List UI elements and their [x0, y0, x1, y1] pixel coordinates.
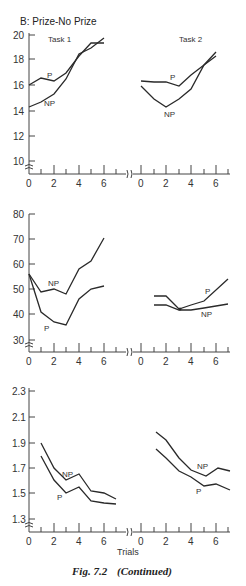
task1-p-line [29, 274, 104, 325]
svg-text:18: 18 [13, 54, 25, 65]
panel-1: B: Prize-No Prize Task 1 Task 2 20 18 16… [13, 16, 230, 189]
intersection-dot [179, 308, 182, 311]
label-p: P [196, 487, 201, 496]
svg-text:6: 6 [213, 178, 219, 189]
svg-text:6: 6 [101, 356, 107, 367]
figure-canvas: B: Prize-No Prize Task 1 Task 2 20 18 16… [0, 0, 246, 586]
svg-text:60: 60 [13, 259, 25, 270]
figure-caption-continued: (Continued) [117, 565, 172, 578]
svg-text:2: 2 [163, 356, 169, 367]
label-p: P [170, 73, 175, 82]
task2-np-line [156, 432, 230, 476]
label-p: P [205, 287, 210, 296]
task2-p-line [156, 449, 230, 490]
svg-text:0: 0 [138, 178, 144, 189]
svg-text:20: 20 [13, 30, 25, 41]
svg-text:30: 30 [13, 335, 25, 346]
task2-p-line [141, 56, 216, 86]
svg-text:2: 2 [163, 178, 169, 189]
task1-p-line [41, 456, 116, 504]
svg-text:1.5: 1.5 [12, 488, 26, 499]
y-ticks: 20 18 16 14 12 10 [13, 30, 35, 167]
svg-text:16: 16 [13, 80, 25, 91]
svg-text:2: 2 [163, 536, 169, 547]
svg-text:0: 0 [138, 536, 144, 547]
svg-text:50: 50 [13, 284, 25, 295]
svg-text:40: 40 [13, 309, 25, 320]
svg-text:80: 80 [13, 209, 25, 220]
svg-text:0: 0 [26, 536, 32, 547]
task1-np-line [29, 238, 104, 294]
svg-text:4: 4 [188, 178, 194, 189]
label-np: NP [164, 110, 175, 119]
panel-2: 80 70 60 50 40 30 02 46 02 46 NP P [13, 209, 230, 367]
svg-text:6: 6 [101, 178, 107, 189]
svg-text:2.1: 2.1 [12, 412, 26, 423]
svg-text:4: 4 [188, 356, 194, 367]
label-np: NP [44, 99, 55, 108]
svg-text:1.3: 1.3 [12, 514, 26, 525]
figure-caption: Fig. 7.2 [71, 565, 108, 577]
svg-text:10: 10 [13, 156, 25, 167]
label-p: P [47, 71, 52, 80]
svg-text:70: 70 [13, 234, 25, 245]
svg-text:4: 4 [76, 536, 82, 547]
svg-text:1.9: 1.9 [12, 438, 26, 449]
svg-text:14: 14 [13, 106, 25, 117]
svg-text:2: 2 [51, 356, 57, 367]
label-p: P [57, 493, 62, 502]
task-1-label: Task 1 [48, 35, 72, 44]
svg-text:4: 4 [188, 536, 194, 547]
svg-text:0: 0 [26, 178, 32, 189]
label-np: NP [201, 310, 212, 319]
panel-title: B: Prize-No Prize [20, 16, 97, 27]
svg-text:0: 0 [26, 356, 32, 367]
axis-break-icon [127, 348, 132, 356]
svg-text:6: 6 [213, 536, 219, 547]
label-np: NP [48, 279, 59, 288]
svg-text:2: 2 [51, 536, 57, 547]
svg-text:2: 2 [51, 178, 57, 189]
y-ticks: 2.3 2.1 1.9 1.7 1.5 1.3 [12, 386, 35, 525]
task-2-label: Task 2 [179, 35, 203, 44]
label-np: NP [62, 470, 73, 479]
svg-text:12: 12 [13, 131, 25, 142]
task2-np-line [141, 52, 216, 107]
x-axis-label: Trials [117, 547, 139, 557]
axis-break-icon [127, 170, 132, 178]
svg-text:0: 0 [138, 356, 144, 367]
svg-text:2.3: 2.3 [12, 386, 26, 397]
axis-break-icon [127, 528, 132, 536]
label-p: P [44, 324, 49, 333]
svg-text:4: 4 [76, 356, 82, 367]
svg-text:6: 6 [101, 536, 107, 547]
task1-np-line [41, 443, 116, 499]
svg-text:4: 4 [76, 178, 82, 189]
svg-text:6: 6 [213, 356, 219, 367]
label-np: NP [197, 462, 208, 471]
svg-text:1.7: 1.7 [12, 463, 26, 474]
panel-3: 2.3 2.1 1.9 1.7 1.5 1.3 02 46 02 46 NP [12, 386, 230, 547]
